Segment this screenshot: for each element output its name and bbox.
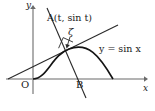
curve-equation-label: y = sin x	[99, 44, 141, 54]
x-axis-label: x	[143, 84, 148, 93]
zeta-angle-label: ζ	[68, 27, 73, 37]
y-axis	[30, 5, 36, 94]
annotation-arrowhead-icon	[65, 44, 70, 49]
point-a-label: A(t, sin t)	[47, 13, 92, 23]
sine-tangent-normal-figure: y x O B A(t, sin t) y = sin x ζ	[0, 0, 155, 111]
point-b-label: B	[76, 80, 83, 90]
origin-label: O	[21, 80, 29, 90]
y-axis-label: y	[26, 1, 31, 10]
